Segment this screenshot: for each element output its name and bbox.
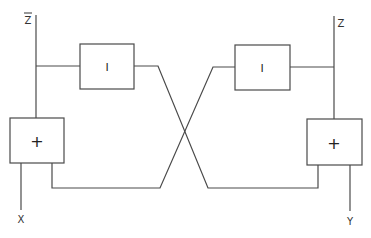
diagram-canvas: I I + + Z Z X Y <box>0 0 371 238</box>
right-adder-symbol: + <box>327 134 340 153</box>
left-bottom-port-label: X <box>18 214 25 225</box>
left-top-port-label: Z <box>25 15 32 26</box>
left-adder-symbol: + <box>30 132 43 151</box>
right-top-port-label: Z <box>338 18 345 29</box>
left-block-label: I <box>105 61 108 74</box>
right-block-label: I <box>260 62 263 75</box>
right-bottom-port-label: Y <box>346 216 354 227</box>
